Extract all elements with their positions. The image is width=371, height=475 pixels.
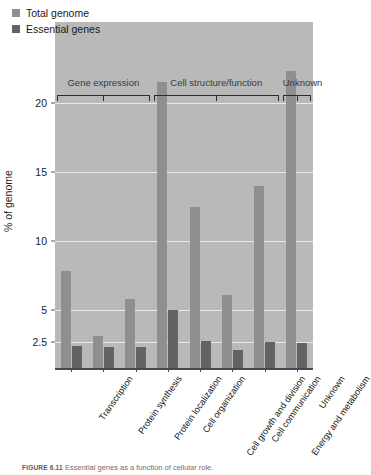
y-tick-label: 15	[35, 166, 47, 178]
bar	[61, 271, 71, 368]
bar	[168, 310, 178, 368]
bar	[297, 343, 307, 368]
bar	[93, 336, 103, 368]
x-tick-label: Cell growth and division	[245, 374, 308, 458]
x-tick-mark	[232, 368, 233, 372]
x-tick-mark	[71, 368, 72, 372]
bar	[233, 350, 243, 368]
bracket-center-tick	[103, 96, 104, 101]
bracket-center-tick	[216, 96, 217, 101]
group-bracket: Unknown	[283, 81, 311, 101]
y-tick-label: 20	[35, 97, 47, 109]
x-tick-mark	[168, 368, 169, 372]
y-axis-title: % of genome	[2, 170, 14, 232]
bar	[254, 186, 264, 368]
group-bracket-label: Gene expression	[57, 77, 150, 88]
bar	[157, 82, 167, 368]
x-tick-mark	[297, 368, 298, 372]
x-tick-mark	[200, 368, 201, 372]
bracket-line	[154, 95, 279, 101]
bar	[286, 71, 296, 368]
bar	[201, 341, 211, 368]
legend-label: Essential genes	[26, 24, 100, 35]
figure-number: FIGURE 6.11	[22, 464, 63, 471]
legend-item: Total genome	[12, 6, 100, 20]
chart-legend: Total genome Essential genes	[12, 6, 100, 38]
bracket-line	[283, 95, 311, 101]
bracket-center-tick	[297, 96, 298, 101]
bar	[72, 346, 82, 368]
square-swatch-icon	[12, 9, 20, 17]
square-swatch-icon	[12, 25, 20, 33]
bar	[104, 347, 114, 368]
group-bracket-label: Cell structure/function	[154, 77, 279, 88]
legend-item: Essential genes	[12, 22, 100, 36]
group-bracket-label: Unknown	[283, 77, 311, 88]
bar	[190, 207, 200, 369]
gridline	[55, 103, 313, 104]
y-axis: % of genome 2.55101520	[0, 0, 55, 475]
group-bracket: Gene expression	[57, 81, 150, 101]
gridline	[55, 172, 313, 173]
bar	[222, 295, 232, 368]
x-axis-line	[55, 368, 313, 370]
figure-caption-text: Essential genes as a function of cellula…	[65, 463, 213, 472]
bar	[125, 299, 135, 368]
figure-caption: FIGURE 6.11 Essential genes as a functio…	[22, 463, 312, 472]
x-tick-mark	[265, 368, 266, 372]
x-tick-label: Cell organization	[200, 374, 247, 435]
y-tick-label: 5	[41, 304, 47, 316]
bar	[265, 342, 275, 368]
x-tick-label: Transcription	[97, 374, 135, 422]
legend-label: Total genome	[26, 8, 89, 19]
x-tick-label: Protein synthesis	[137, 374, 185, 436]
x-tick-mark	[136, 368, 137, 372]
gridline	[55, 310, 313, 311]
plot-area: Gene expressionCell structure/functionUn…	[55, 22, 313, 368]
y-tick-label: 2.5	[32, 336, 47, 348]
bar	[136, 347, 146, 368]
gridline	[55, 241, 313, 242]
x-tick-mark	[103, 368, 104, 372]
bracket-line	[57, 95, 150, 101]
y-tick-label: 10	[35, 235, 47, 247]
group-bracket: Cell structure/function	[154, 81, 279, 101]
